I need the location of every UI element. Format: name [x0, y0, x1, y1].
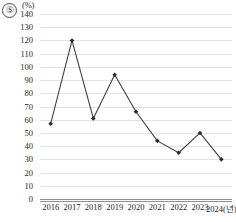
y-axis-tick-label: 120 [0, 35, 33, 45]
x-axis-tick-label: 2022 [170, 202, 187, 212]
y-axis-tick-label: 130 [0, 22, 33, 32]
y-axis-tick-label: 30 [0, 154, 33, 164]
y-axis-tick-label: 70 [0, 102, 33, 112]
y-axis-tick-label: 50 [0, 128, 33, 138]
x-axis-tick-label: 2020 [128, 202, 145, 212]
line-series-group [40, 14, 232, 199]
y-axis-tick-label: 140 [0, 9, 33, 19]
y-axis-tick-label: 10 [0, 181, 33, 191]
x-axis-tick-label: 2019 [106, 202, 123, 212]
x-axis-tick-label: 2024(년) [206, 202, 236, 214]
y-axis-tick-label: 90 [0, 75, 33, 85]
x-axis-tick-label: 2018 [85, 202, 102, 212]
data-point-marker [48, 121, 53, 126]
x-axis-baseline [40, 199, 232, 200]
data-point-marker [70, 38, 75, 43]
x-axis-tick-label: 2021 [149, 202, 166, 212]
series-line [51, 40, 222, 159]
y-axis-tick-label: 60 [0, 115, 33, 125]
y-axis-tick-label: 0 [0, 194, 33, 204]
y-axis-tick-label: 40 [0, 141, 33, 151]
y-axis-tick-label: 110 [0, 49, 33, 59]
y-axis-tick-label: 80 [0, 88, 33, 98]
data-point-marker [112, 72, 117, 77]
plot-area: 0102030405060708090100110120130140 20162… [40, 14, 232, 199]
y-axis-tick-label: 20 [0, 168, 33, 178]
chart-figure: ⑤ (%) 0102030405060708090100110120130140… [0, 0, 236, 222]
x-axis-tick-label: 2017 [64, 202, 81, 212]
y-axis-tick-label: 100 [0, 62, 33, 72]
data-point-marker [91, 116, 96, 121]
x-axis-tick-label: 2016 [42, 202, 59, 212]
